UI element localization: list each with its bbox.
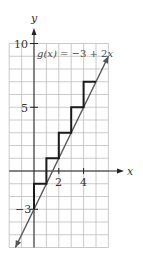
equation-func: g(x) (37, 48, 57, 59)
graph-figure: y x 10 5 −3 2 4 g(x) = −3 + 2x (0, 0, 143, 257)
y-axis-arrow-icon (32, 28, 37, 35)
y-axis-label: y (30, 12, 38, 25)
equation-body: = −3 + 2 (57, 48, 108, 59)
equation-var: x (107, 48, 113, 59)
x-axis-label: x (127, 165, 134, 178)
x-axis-arrow-icon (117, 169, 124, 174)
x-tick-label-2: 2 (55, 176, 62, 189)
line-segment (15, 56, 108, 247)
y-tick-label-10: 10 (14, 38, 28, 51)
y-tick-label-neg3: −3 (15, 203, 31, 216)
x-tick-label-4: 4 (80, 176, 87, 189)
y-tick-label-5: 5 (21, 102, 28, 115)
line-g-of-x (15, 56, 108, 247)
equation-label: g(x) = −3 + 2x (37, 48, 113, 59)
